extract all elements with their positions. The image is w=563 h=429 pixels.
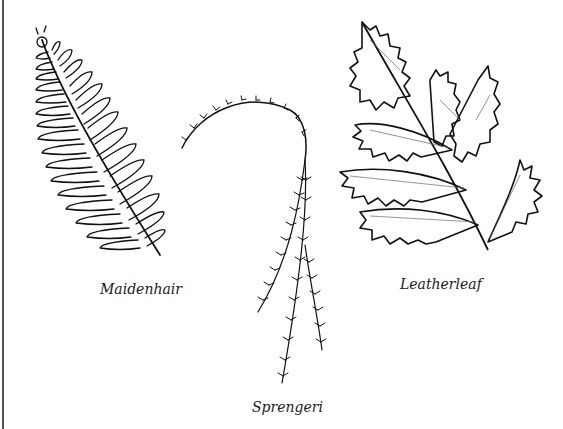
leatherleaf-fern-drawing [340,22,542,250]
maidenhair-label: Maidenhair [100,281,182,297]
sprengeri-label: Sprengeri [252,399,323,415]
leatherleaf-label: Leatherleaf [400,276,482,292]
maidenhair-fern-drawing [36,26,165,255]
fern-illustration [0,0,563,429]
sprengeri-fern-drawing [182,96,326,383]
